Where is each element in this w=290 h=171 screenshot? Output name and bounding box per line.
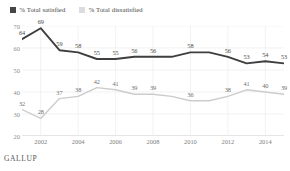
x-axis-tick: 2010 [184,138,197,145]
data-label-dissatisfied: 41 [244,79,250,86]
y-axis-tick: 20 [14,133,20,140]
x-axis-tick: 2014 [259,138,272,145]
x-axis-tick: 2006 [109,138,122,145]
legend-label-dissatisfied: % Total dissatisfied [89,6,143,13]
data-label-satisfied: 55 [113,49,119,56]
data-label-satisfied: 59 [56,40,62,47]
data-label-dissatisfied: 37 [56,88,62,95]
x-axis-tick: 2004 [72,138,85,145]
data-label-satisfied: 58 [75,42,81,49]
data-label-dissatisfied: 28 [38,108,44,115]
data-label-satisfied: 64 [19,29,25,36]
y-axis-tick: 50 [14,67,20,74]
data-label-dissatisfied: 41 [113,79,119,86]
x-axis-tick: 2012 [221,138,234,145]
legend-swatch-satisfied [10,7,16,13]
x-axis-labels: 2002200420062008201020122014 [22,138,284,150]
y-axis-tick: 30 [14,111,20,118]
data-label-satisfied: 53 [281,53,287,60]
y-axis-labels: 203040506070 [2,26,20,136]
data-label-satisfied: 54 [262,51,268,58]
data-label-satisfied: 55 [94,49,100,56]
data-label-satisfied: 56 [150,46,156,53]
legend-swatch-dissatisfied [79,7,85,13]
data-label-satisfied: 58 [187,42,193,49]
legend-item-dissatisfied: % Total dissatisfied [79,6,142,13]
legend-label-satisfied: % Total satisfied [20,6,66,13]
x-axis-tick: 2002 [34,138,47,145]
legend-item-satisfied: % Total satisfied [10,6,65,13]
data-label-dissatisfied: 38 [75,86,81,93]
data-label-dissatisfied: 38 [225,86,231,93]
data-label-dissatisfied: 40 [262,82,268,89]
data-label-dissatisfied: 36 [187,90,193,97]
chart-container: % Total satisfied % Total dissatisfied 2… [0,0,290,171]
data-label-satisfied: 69 [38,18,44,25]
y-axis-tick: 60 [14,45,20,52]
data-label-dissatisfied: 39 [150,84,156,91]
y-axis-tick: 40 [14,89,20,96]
data-label-satisfied: 56 [131,46,137,53]
chart-legend: % Total satisfied % Total dissatisfied [10,6,143,13]
data-label-satisfied: 56 [225,46,231,53]
data-label-dissatisfied: 32 [19,99,25,106]
data-label-dissatisfied: 39 [131,84,137,91]
data-label-satisfied: 53 [244,53,250,60]
data-label-dissatisfied: 39 [281,84,287,91]
source-attribution: GALLUP [4,154,37,163]
data-label-dissatisfied: 42 [94,77,100,84]
x-axis-tick: 2008 [147,138,160,145]
